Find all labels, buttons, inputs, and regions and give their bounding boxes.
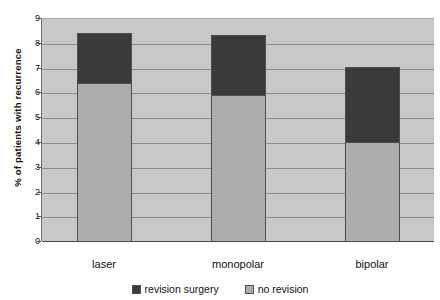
bar-bipolar-no-revision[interactable] [345,142,400,242]
bar-laser-no-revision[interactable] [77,83,132,242]
bar-monopolar[interactable] [211,35,266,242]
bar-monopolar-revision-surgery[interactable] [211,35,266,96]
bar-bipolar-revision-surgery[interactable] [345,67,400,143]
legend-swatch-revision-surgery [132,285,141,294]
chart-legend: revision surgery no revision [0,283,440,295]
bar-monopolar-no-revision[interactable] [211,95,266,242]
legend-swatch-no-revision [245,285,254,294]
x-tick-label-laser: laser [34,258,174,270]
bar-laser[interactable] [77,33,132,242]
legend-item-revision-surgery[interactable]: revision surgery [132,283,219,295]
x-tick-label-monopolar: monopolar [168,258,308,270]
bar-laser-revision-surgery[interactable] [77,33,132,84]
stacked-bar-chart: % of patients with recurrence 9 8 7 6 5 … [0,0,440,300]
plot-area [41,18,434,241]
legend-item-no-revision[interactable]: no revision [245,283,309,295]
legend-label-revision-surgery: revision surgery [145,283,219,295]
y-tick-mark-0 [37,241,41,242]
x-tick-label-bipolar: bipolar [302,258,440,270]
plot-inner [42,19,434,241]
legend-label-no-revision: no revision [258,283,309,295]
bar-bipolar[interactable] [345,67,400,242]
